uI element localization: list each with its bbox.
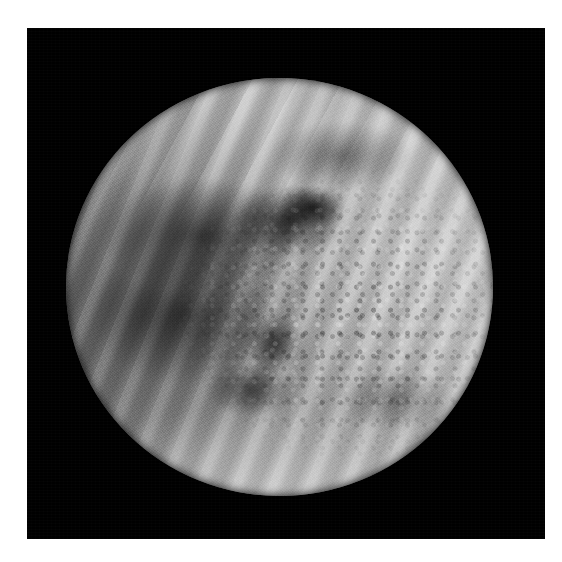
film-grain-layer <box>66 78 493 496</box>
venus-disk <box>66 78 493 496</box>
venus-image-panel <box>27 28 545 539</box>
venus-disk-container <box>66 78 493 496</box>
limb-darkening-layer <box>66 78 493 496</box>
north-polar-bright-hood-layer <box>66 78 493 496</box>
dark-equatorial-cloud-mass-layer <box>66 78 493 496</box>
disk-base-illumination-layer <box>66 78 493 496</box>
scanned-page <box>0 0 562 562</box>
subsolar-convective-cells-layer <box>66 78 493 496</box>
mid-latitude-streak-bands-layer <box>66 78 493 496</box>
